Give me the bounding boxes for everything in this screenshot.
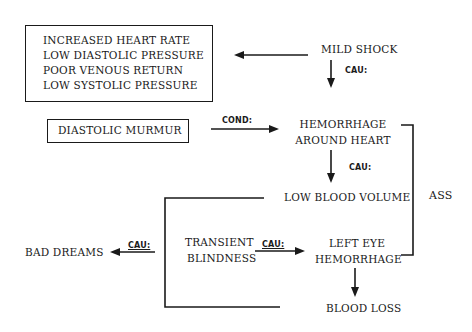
symptom-poor-venous-return: POOR VENOUS RETURN	[43, 63, 183, 78]
arrow-left-eye-to-blood-loss	[351, 268, 359, 297]
node-diastolic-murmur: DIASTOLIC MURMUR	[58, 123, 182, 138]
node-mild-shock: MILD SHOCK	[321, 42, 397, 57]
node-blood-loss: BLOOD LOSS	[326, 301, 401, 316]
symptom-low-systolic-pressure: LOW SYSTOLIC PRESSURE	[43, 78, 198, 93]
relation-cau-blindness: CAU:	[262, 240, 284, 249]
relation-cau-bad-dreams: CAU:	[128, 241, 150, 250]
node-left-eye-line1: LEFT EYE	[318, 236, 396, 251]
relation-cau-hemorrhage: CAU:	[349, 163, 371, 172]
relation-cau-mild-shock: CAU:	[345, 66, 367, 75]
symptom-increased-heart-rate: INCREASED HEART RATE	[43, 33, 190, 48]
arrow-mild-shock-to-symptoms	[234, 51, 308, 59]
node-low-blood-volume: LOW BLOOD VOLUME	[284, 190, 410, 205]
node-transient-line2: BLINDNESS	[187, 251, 256, 266]
arrow-hemorrhage-to-low-volume	[327, 150, 335, 183]
node-hemorrhage-line1: HEMORRHAGE	[298, 117, 388, 132]
node-left-eye-line2: HEMORRHAGE	[315, 252, 399, 267]
arrow-murmur-to-hemorrhage	[211, 125, 279, 133]
symptom-low-diastolic-pressure: LOW DIASTOLIC PRESSURE	[43, 48, 204, 63]
arrow-mild-shock-to-hemorrhage	[327, 60, 335, 88]
node-transient-line1: TRANSIENT	[185, 235, 254, 250]
association-label: ASS	[429, 188, 452, 203]
node-hemorrhage-line2: AROUND HEART	[294, 133, 392, 148]
node-bad-dreams: BAD DREAMS	[25, 245, 104, 260]
relation-cond: COND:	[222, 116, 252, 125]
